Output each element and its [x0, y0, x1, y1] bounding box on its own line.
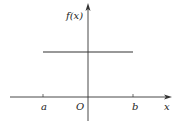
x-tick-label-a: a [41, 101, 47, 112]
axes [10, 3, 172, 121]
x-tick-label-b: b [132, 101, 138, 112]
chart: f(x) x O a b [0, 0, 178, 126]
y-axis-label: f(x) [65, 10, 83, 21]
origin-label: O [76, 101, 84, 112]
x-axis-label: x [164, 101, 170, 112]
